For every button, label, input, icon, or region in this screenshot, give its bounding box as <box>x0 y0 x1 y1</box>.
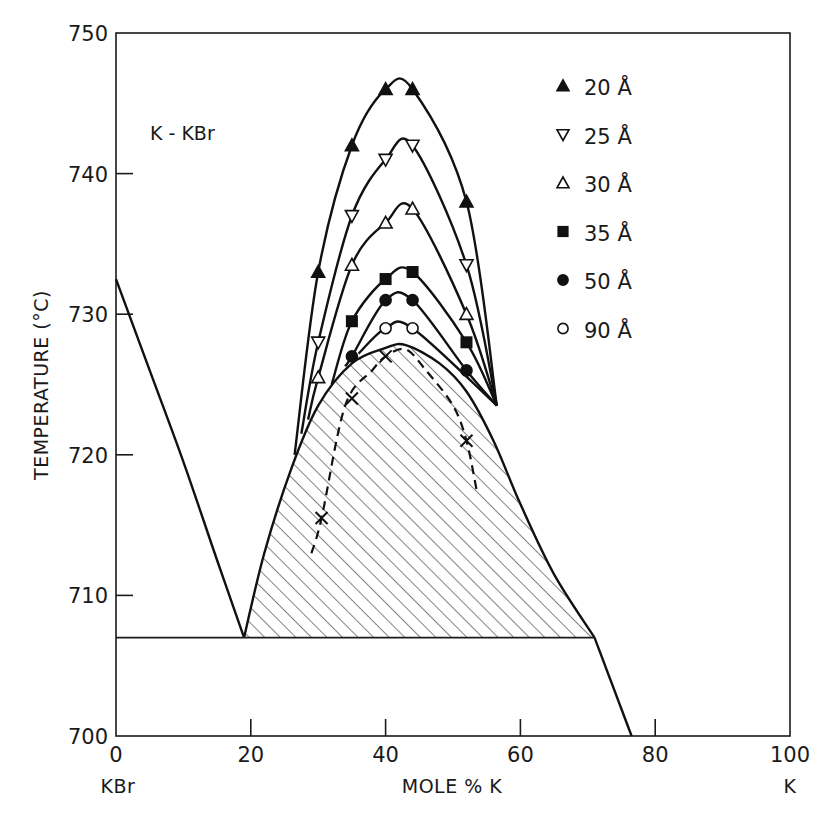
legend-item: 50 Å <box>558 268 632 294</box>
y-tick-label: 720 <box>68 444 108 468</box>
legend-item: 20 Å <box>557 74 632 100</box>
y-tick-label: 730 <box>68 303 108 327</box>
filled-triangle-up-icon <box>312 266 325 278</box>
open-triangle-down-icon <box>312 337 325 349</box>
open-triangle-down-icon <box>460 260 473 272</box>
open-circle-icon <box>407 323 418 334</box>
filled-circle-icon <box>461 365 472 376</box>
phase-diagram-chart: 700710720730740750 020406080100 K - KBr … <box>0 0 836 820</box>
legend-label: 25 Å <box>584 123 632 149</box>
filled-square-icon <box>407 267 417 277</box>
open-triangle-up-icon <box>312 371 325 383</box>
liquidus-kbr-side-curve <box>116 279 244 638</box>
x-axis-left-end-label: KBr <box>101 775 136 797</box>
filled-square-icon <box>461 337 471 347</box>
x-axis: 020406080100 <box>109 719 810 767</box>
open-circle-icon <box>380 323 391 334</box>
legend-label: 35 Å <box>584 220 632 246</box>
filled-triangle-up-icon <box>557 80 569 91</box>
x-axis-title: MOLE % K <box>402 775 503 797</box>
series-markers <box>312 83 473 383</box>
x-tick-label: 20 <box>237 743 264 767</box>
filled-square-icon <box>347 316 357 326</box>
filled-circle-icon <box>380 295 391 306</box>
x-tick-label: 0 <box>109 743 122 767</box>
open-triangle-down-icon <box>557 130 569 141</box>
x-axis-right-end-label: K <box>784 775 797 797</box>
y-tick-label: 710 <box>68 584 108 608</box>
filled-square-icon <box>558 227 568 237</box>
filled-circle-icon <box>558 275 568 285</box>
x-tick-label: 60 <box>507 743 534 767</box>
y-axis-title: TEMPERATURE (°C) <box>30 290 52 481</box>
filled-circle-icon <box>346 351 357 362</box>
open-circle-icon <box>558 323 568 333</box>
filled-square-icon <box>380 274 390 284</box>
y-axis: 700710720730740750 <box>68 22 133 749</box>
legend-label: 20 Å <box>584 74 632 100</box>
x-tick-label: 80 <box>642 743 669 767</box>
legend-item: 25 Å <box>557 123 632 149</box>
legend: 20 Å25 Å30 Å35 Å50 Å90 Å <box>557 74 632 343</box>
system-label: K - KBr <box>150 122 215 144</box>
open-triangle-up-icon <box>460 308 473 320</box>
y-tick-label: 700 <box>68 725 108 749</box>
y-tick-label: 750 <box>68 22 108 46</box>
legend-item: 30 Å <box>557 171 632 197</box>
y-tick-label: 740 <box>68 163 108 187</box>
two-liquid-hatched-region <box>244 344 594 638</box>
open-triangle-up-icon <box>345 258 358 270</box>
open-triangle-up-icon <box>557 177 569 188</box>
x-tick-label: 40 <box>372 743 399 767</box>
liquidus-k-side-line <box>595 638 632 736</box>
x-tick-label: 100 <box>770 743 810 767</box>
filled-triangle-up-icon <box>460 195 473 207</box>
legend-label: 50 Å <box>584 268 632 294</box>
open-triangle-down-icon <box>345 211 358 223</box>
filled-triangle-up-icon <box>345 139 358 151</box>
legend-label: 30 Å <box>584 171 632 197</box>
legend-label: 90 Å <box>584 317 632 343</box>
filled-circle-icon <box>407 295 418 306</box>
legend-item: 35 Å <box>558 220 632 246</box>
legend-item: 90 Å <box>558 317 632 343</box>
